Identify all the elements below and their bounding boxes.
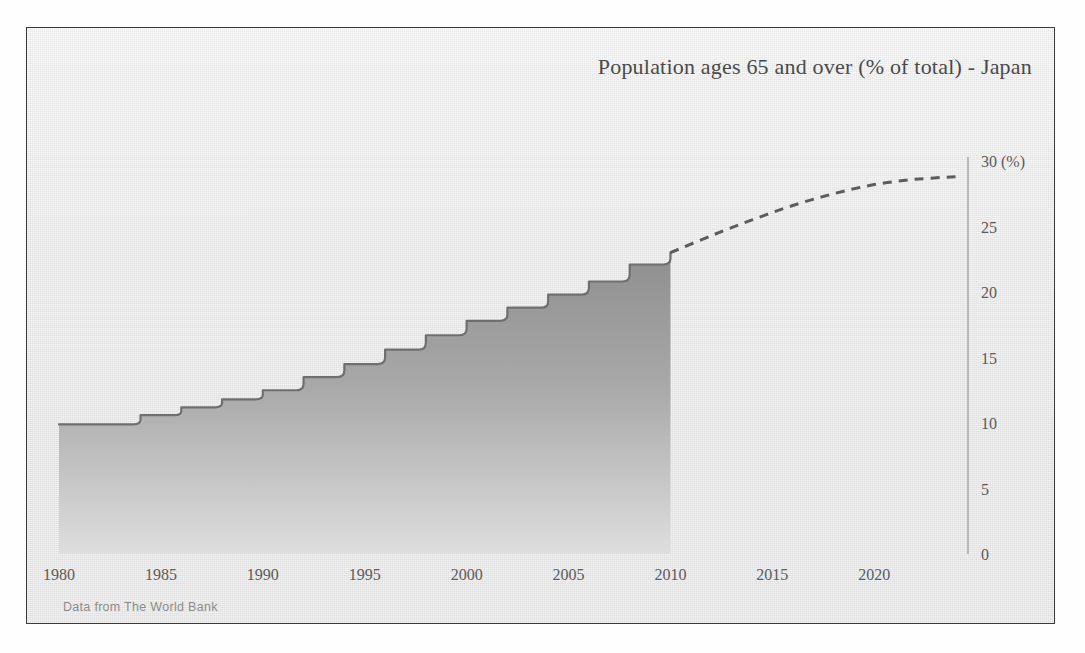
y-axis-tick-label: 15 [981,350,997,367]
chart-frame: Population ages 65 and over (% of total)… [26,27,1055,624]
y-axis: 051015202530 (%) [968,153,1025,563]
y-axis-tick-label: 25 [981,219,997,236]
x-axis-tick-label: 2005 [553,566,585,583]
source-note: Data from The World Bank [63,600,218,614]
x-axis: 198019851990199520002005201020152020 [43,557,968,583]
y-axis-tick-label: 5 [981,481,989,498]
x-axis-tick-label: 1995 [349,566,381,583]
x-axis-tick-label: 2000 [451,566,483,583]
x-axis-tick-label: 1980 [43,566,75,583]
y-axis-tick-label: 10 [981,415,997,432]
forecast-dashed-series [670,177,955,253]
chart-title: Population ages 65 and over (% of total)… [598,54,1032,80]
historical-area-series [59,253,670,554]
population-area-chart: 051015202530 (%) 19801985199019952000200… [27,28,1055,624]
screenshot-root: Population ages 65 and over (% of total)… [0,0,1085,653]
x-axis-tick-label: 2015 [756,566,788,583]
y-axis-tick-label: 30 (%) [981,153,1025,171]
x-axis-tick-label: 1990 [247,566,279,583]
x-axis-tick-label: 2010 [654,566,686,583]
x-axis-tick-label: 1985 [145,566,177,583]
y-axis-tick-label: 0 [981,546,989,563]
y-axis-tick-label: 20 [981,284,997,301]
x-axis-tick-label: 2020 [858,566,890,583]
